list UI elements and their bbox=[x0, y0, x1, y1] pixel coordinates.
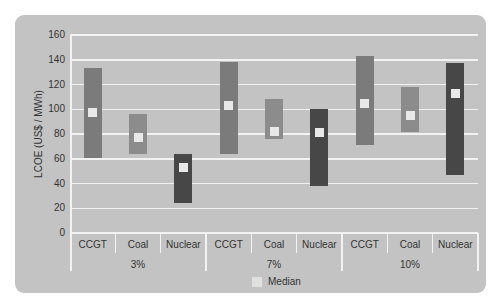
gridline bbox=[70, 183, 478, 185]
range-bar-nuclear bbox=[174, 154, 192, 204]
y-tick-label: 80 bbox=[35, 128, 65, 140]
x-category-label: Coal bbox=[388, 239, 433, 250]
range-bar-coal bbox=[401, 87, 419, 132]
median-marker bbox=[270, 127, 279, 136]
gridline bbox=[70, 158, 478, 160]
y-tick-label: 0 bbox=[35, 227, 65, 239]
median-marker bbox=[88, 108, 97, 117]
range-bar-nuclear bbox=[446, 63, 464, 174]
x-category-label: Nuclear bbox=[433, 239, 478, 250]
median-marker bbox=[360, 99, 369, 108]
y-tick-label: 40 bbox=[35, 178, 65, 190]
x-category-label: CCGT bbox=[206, 239, 251, 250]
gridline bbox=[70, 34, 478, 36]
median-marker bbox=[134, 133, 143, 142]
range-bar-nuclear bbox=[310, 109, 328, 186]
gridline bbox=[70, 208, 478, 210]
x-category-label: Coal bbox=[252, 239, 297, 250]
y-tick-label: 140 bbox=[35, 54, 65, 66]
y-axis-line bbox=[70, 35, 72, 271]
x-group-label: 7% bbox=[206, 259, 342, 270]
legend: Median bbox=[252, 276, 301, 287]
median-marker bbox=[406, 111, 415, 120]
y-tick-label: 100 bbox=[35, 103, 65, 115]
x-category-label: CCGT bbox=[342, 239, 387, 250]
gridline bbox=[70, 59, 478, 61]
median-swatch-icon bbox=[252, 277, 262, 287]
median-marker bbox=[224, 101, 233, 110]
x-category-label: Nuclear bbox=[161, 239, 206, 250]
gridline bbox=[70, 84, 478, 86]
y-tick-label: 60 bbox=[35, 153, 65, 165]
y-tick-label: 20 bbox=[35, 202, 65, 214]
gridline bbox=[70, 232, 478, 234]
median-marker bbox=[451, 89, 460, 98]
x-category-label: Coal bbox=[116, 239, 161, 250]
median-marker bbox=[315, 128, 324, 137]
x-category-label: CCGT bbox=[70, 239, 115, 250]
legend-label-median: Median bbox=[268, 276, 301, 287]
x-category-label: Nuclear bbox=[297, 239, 342, 250]
median-marker bbox=[179, 163, 188, 172]
x-group-label: 3% bbox=[70, 259, 206, 270]
y-tick-label: 120 bbox=[35, 79, 65, 91]
y-tick-label: 160 bbox=[35, 29, 65, 41]
x-group-label: 10% bbox=[342, 259, 478, 270]
